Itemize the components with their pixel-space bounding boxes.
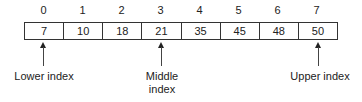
array-cell: 21 [142,23,181,39]
array-cell: 10 [64,23,103,39]
index-label: 5 [219,4,258,16]
index-label: 3 [141,4,180,16]
index-label: 2 [102,4,141,16]
index-label: 4 [180,4,219,16]
lower-index-label: Lower index [6,70,82,83]
array-cell: 18 [103,23,142,39]
array-cell: 45 [221,23,260,39]
middle-label-line2: index [136,83,188,96]
index-label: 6 [258,4,297,16]
upper-index-label: Upper index [282,70,358,83]
lower-arrow-line [43,47,44,66]
array-cell: 48 [260,23,299,39]
array-cell: 50 [299,23,337,39]
upper-arrow-line [318,47,319,66]
middle-arrow-line [161,47,162,66]
sorted-array: 7 10 18 21 35 45 48 50 [24,22,338,40]
middle-index-label: Middle index [136,70,188,96]
middle-label-line1: Middle [136,70,188,83]
index-label: 1 [63,4,102,16]
index-label: 7 [297,4,336,16]
array-cell: 7 [25,23,64,39]
index-label: 0 [24,4,63,16]
array-cell: 35 [182,23,221,39]
